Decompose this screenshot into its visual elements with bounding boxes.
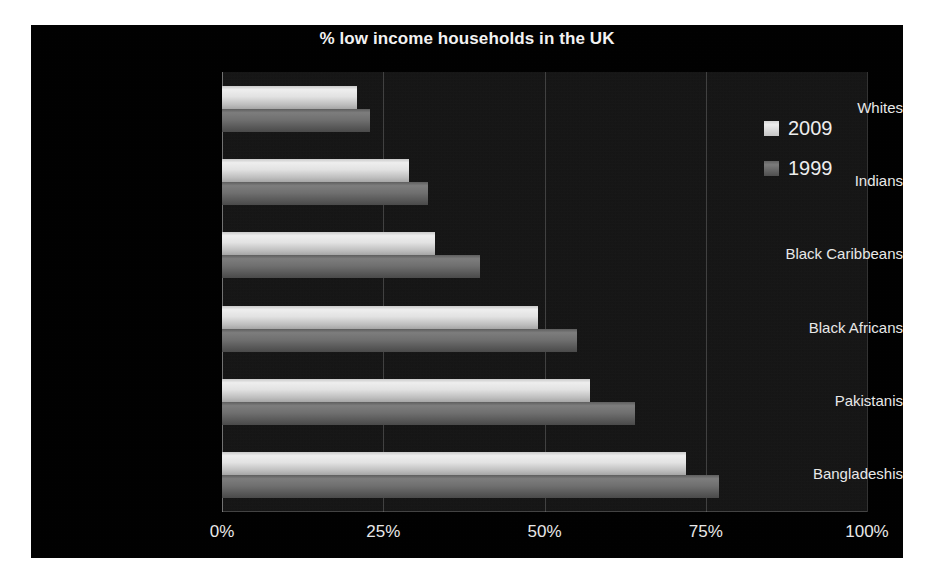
legend-item-1999[interactable]: 1999 bbox=[764, 148, 833, 188]
bar-bangladeshis-1999 bbox=[222, 475, 719, 498]
bar-pakistanis-1999 bbox=[222, 402, 635, 425]
bar-black-caribbeans-1999 bbox=[222, 255, 480, 278]
legend-swatch-2009 bbox=[764, 121, 779, 136]
bar-bangladeshis-2009 bbox=[222, 452, 686, 475]
legend-item-2009[interactable]: 2009 bbox=[764, 108, 833, 148]
bar-indians-2009 bbox=[222, 159, 409, 182]
category-label-black-caribbeans: Black Caribbeans bbox=[724, 245, 903, 262]
category-label-pakistanis: Pakistanis bbox=[724, 392, 903, 409]
legend-label-2009: 2009 bbox=[788, 117, 833, 140]
x-tick-50%: 50% bbox=[527, 522, 561, 542]
legend-label-1999: 1999 bbox=[788, 157, 833, 180]
chart-frame: % low income households in the UK Whites… bbox=[31, 25, 903, 558]
gridline-100% bbox=[867, 72, 868, 512]
bar-whites-2009 bbox=[222, 86, 357, 109]
x-tick-0%: 0% bbox=[210, 522, 235, 542]
legend-swatch-1999 bbox=[764, 161, 779, 176]
bar-indians-1999 bbox=[222, 182, 428, 205]
chart-title: % low income households in the UK bbox=[31, 29, 903, 49]
category-label-black-africans: Black Africans bbox=[724, 319, 903, 336]
bar-black-africans-1999 bbox=[222, 329, 577, 352]
legend: 2009 1999 bbox=[764, 108, 833, 188]
bar-whites-1999 bbox=[222, 109, 370, 132]
bar-black-caribbeans-2009 bbox=[222, 232, 435, 255]
x-tick-100%: 100% bbox=[845, 522, 888, 542]
category-label-bangladeshis: Bangladeshis bbox=[724, 465, 903, 482]
x-tick-25%: 25% bbox=[366, 522, 400, 542]
bar-black-africans-2009 bbox=[222, 306, 538, 329]
bar-pakistanis-2009 bbox=[222, 379, 590, 402]
x-tick-75%: 75% bbox=[689, 522, 723, 542]
